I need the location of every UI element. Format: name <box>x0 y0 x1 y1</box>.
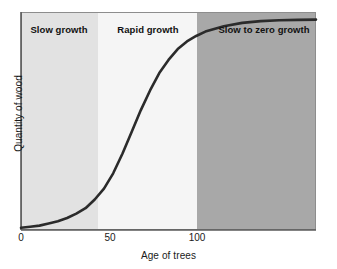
band-slow-growth <box>21 12 98 230</box>
x-axis-title: Age of trees <box>0 250 337 261</box>
band-backgrounds <box>21 12 316 230</box>
band-label-slow-growth: Slow growth <box>30 24 87 35</box>
x-axis-tick-label: 100 <box>189 232 206 243</box>
chart-figure: Slow growth Rapid growth Slow to zero gr… <box>0 0 337 269</box>
y-axis-title: Quantity of wood <box>13 44 24 184</box>
band-label-slow-to-zero-growth: Slow to zero growth <box>218 24 309 35</box>
growth-curve-chart <box>0 0 337 269</box>
x-axis-tick-label: 50 <box>104 232 115 243</box>
band-label-rapid-growth: Rapid growth <box>117 24 178 35</box>
band-slow-to-zero-growth <box>197 12 316 230</box>
x-axis-tick-label: 0 <box>18 232 24 243</box>
